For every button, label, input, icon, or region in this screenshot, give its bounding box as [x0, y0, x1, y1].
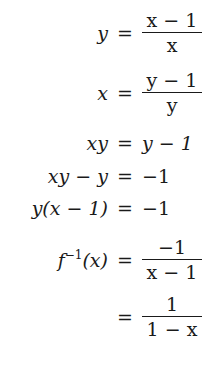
numerator: y − 1 [144, 68, 201, 92]
equals-sign: = [108, 22, 142, 44]
function-name: f [58, 249, 65, 271]
inverse-exponent: −1 [65, 248, 83, 262]
rhs: −1 [142, 197, 170, 219]
equation-row-6: f−1(x) = −1 x − 1 [0, 235, 216, 284]
equation-row-3: xy = y − 1 [0, 132, 216, 154]
fraction: x − 1 x [142, 8, 202, 57]
equals-sign: = [108, 197, 142, 219]
equals-sign: = [108, 306, 142, 328]
fraction: 1 1 − x [142, 292, 202, 341]
function-arg: (x) [82, 249, 108, 271]
equals-sign: = [108, 249, 142, 271]
fraction: −1 x − 1 [142, 235, 202, 284]
equals-sign: = [108, 132, 142, 154]
equation-row-7: = 1 1 − x [0, 292, 216, 341]
lhs: xy − y [0, 165, 108, 187]
denominator: y [164, 93, 181, 117]
denominator: x [164, 33, 181, 57]
equation-row-1: y = x − 1 x [0, 8, 216, 57]
equals-sign: = [108, 82, 142, 104]
numerator: 1 [163, 292, 181, 316]
rhs: −1 [142, 165, 170, 187]
numerator: −1 [155, 235, 189, 259]
rhs: y − 1 [142, 132, 193, 154]
lhs: x [0, 82, 108, 104]
lhs: xy [0, 132, 108, 154]
lhs: y(x − 1) [0, 197, 108, 219]
equation-row-4: xy − y = −1 [0, 165, 216, 187]
equals-sign: = [108, 165, 142, 187]
denominator: 1 − x [144, 317, 201, 341]
equation-row-2: x = y − 1 y [0, 68, 216, 117]
lhs-inverse-function: f−1(x) [0, 248, 108, 271]
lhs: y [0, 22, 108, 44]
numerator: x − 1 [144, 8, 201, 32]
equation-row-5: y(x − 1) = −1 [0, 197, 216, 219]
denominator: x − 1 [144, 260, 201, 284]
fraction: y − 1 y [142, 68, 202, 117]
